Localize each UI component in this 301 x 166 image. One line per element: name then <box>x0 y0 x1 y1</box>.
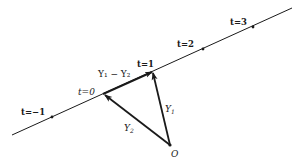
label-t-1: t=1 <box>137 59 154 69</box>
label-t-minus-1: t=−1 <box>21 107 45 117</box>
point-t-3 <box>252 26 255 29</box>
label-t-3: t=3 <box>230 17 247 27</box>
label-origin: O <box>171 149 179 159</box>
label-t-0: t=0 <box>78 87 95 97</box>
label-y2: Y2 <box>124 123 134 134</box>
label-t-2: t=2 <box>177 39 194 49</box>
label-y1: Y1 <box>165 104 175 115</box>
label-y1-minus-y2: Y₁ − Y₂ <box>97 69 131 79</box>
point-t-minus-1 <box>51 116 54 119</box>
parametric-line <box>12 8 292 135</box>
point-t-2 <box>202 48 205 51</box>
diagram-canvas: t=−1 t=0 t=1 t=2 t=3 Y₁ − Y₂ Y1 Y2 O <box>0 0 301 166</box>
